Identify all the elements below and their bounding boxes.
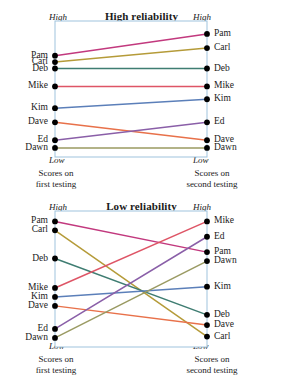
data-point-right-deb [204,66,210,72]
data-point-right-dawn [204,258,210,264]
data-point-right-dawn [204,145,210,151]
point-label-right-pam: Pam [214,29,231,39]
data-point-left-dave [52,303,58,309]
data-point-right-carl [204,45,210,51]
data-point-left-deb [52,66,58,72]
point-label-right-kim: Kim [214,282,231,292]
data-point-left-pam [52,219,58,225]
point-label-left-deb: Deb [32,254,48,264]
data-point-right-mike [204,84,210,90]
data-point-left-carl [52,59,58,65]
point-label-right-carl: Carl [214,332,230,342]
point-label-right-dawn: Dawn [214,143,237,153]
data-point-right-kim [204,96,210,102]
data-point-left-ed [52,137,58,143]
point-label-right-mike: Mike [214,216,234,226]
point-label-right-deb: Deb [214,310,230,320]
chart-panel-low-reliability: Low reliability High High Low Low Scores… [0,190,283,392]
data-point-left-dave [52,119,58,125]
data-point-right-ed [204,119,210,125]
point-label-left-deb: Deb [32,64,48,74]
data-point-left-carl [52,227,58,233]
point-label-left-dawn: Dawn [25,333,48,343]
point-label-left-dawn: Dawn [25,143,48,153]
chart-panel-high-reliability: High reliability High High Low Low Score… [0,0,283,196]
data-point-left-kim [52,105,58,111]
point-label-right-kim: Kim [214,94,231,104]
data-point-right-deb [204,312,210,318]
point-label-right-deb: Deb [214,64,230,74]
data-point-right-dave [204,137,210,143]
data-point-right-carl [204,334,210,340]
data-point-left-mike [52,285,58,291]
point-label-right-dawn: Dawn [214,256,237,266]
data-point-right-pam [204,31,210,37]
data-point-left-dawn [52,145,58,151]
plot-area-high-reliability [0,0,283,196]
data-point-right-dave [204,322,210,328]
data-point-left-kim [52,294,58,300]
data-point-right-ed [204,234,210,240]
data-point-left-pam [52,53,58,59]
point-label-left-mike: Mike [28,81,48,91]
data-point-left-ed [52,326,58,332]
data-point-left-deb [52,256,58,262]
point-label-left-dave: Dave [28,117,48,127]
data-point-right-mike [204,219,210,225]
point-label-left-dave: Dave [28,301,48,311]
data-point-left-mike [52,84,58,90]
data-point-left-dawn [52,335,58,341]
point-label-left-kim: Kim [31,103,48,113]
point-label-right-carl: Carl [214,43,230,53]
plot-frame [55,21,207,157]
point-label-right-mike: Mike [214,81,234,91]
point-label-right-dave: Dave [214,320,234,330]
data-point-right-kim [204,284,210,290]
point-label-left-carl: Carl [32,225,48,235]
point-label-right-ed: Ed [214,232,225,242]
data-point-right-pam [204,249,210,255]
point-label-right-ed: Ed [214,117,225,127]
